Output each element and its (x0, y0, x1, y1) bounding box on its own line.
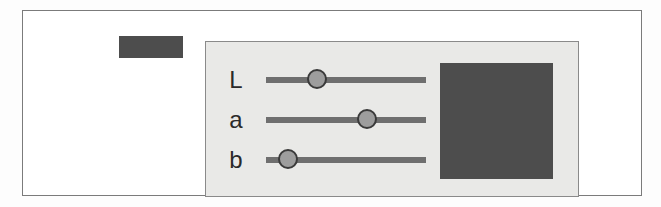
slider-a[interactable] (266, 103, 426, 137)
slider-track-a[interactable] (266, 117, 426, 123)
slider-thumb-b[interactable] (278, 149, 298, 169)
current-color-swatch[interactable] (119, 36, 183, 58)
slider-thumb-L[interactable] (307, 69, 327, 89)
slider-label-L: L (214, 63, 258, 97)
slider-b[interactable] (266, 143, 426, 177)
slider-thumb-a[interactable] (357, 109, 377, 129)
slider-track-L[interactable] (266, 77, 426, 83)
slider-label-a: a (214, 103, 258, 137)
outer-frame: L a b (22, 10, 642, 196)
lab-control-panel: L a b (205, 41, 579, 197)
color-preview-swatch (440, 63, 553, 179)
slider-L[interactable] (266, 63, 426, 97)
screenshot-root: L a b (0, 0, 661, 207)
slider-label-b: b (214, 143, 258, 177)
